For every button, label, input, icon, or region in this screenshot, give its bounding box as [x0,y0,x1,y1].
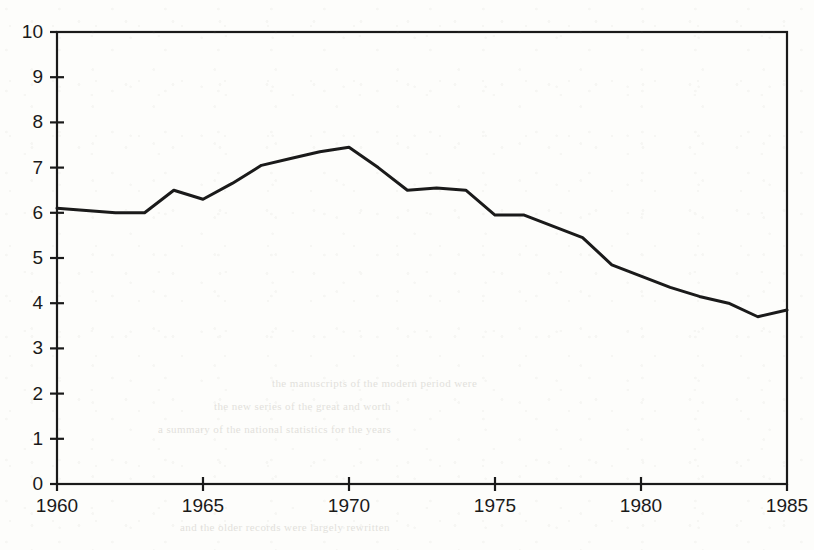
chart-background [0,0,814,550]
x-axis: 196019651970197519801985 [36,477,808,516]
x-tick-label: 1960 [36,495,78,516]
x-tick-label: 1965 [182,495,224,516]
x-tick-label: 1970 [328,495,370,516]
y-tick-label: 1 [32,428,43,449]
y-tick-label: 5 [32,247,43,268]
y-tick-label: 2 [32,383,43,404]
y-tick-label: 8 [32,111,43,132]
data-line-series-1 [57,147,787,317]
y-tick-label: 3 [32,337,43,358]
line-chart: 012345678910 196019651970197519801985 [0,0,814,550]
y-tick-label: 4 [32,292,43,313]
y-tick-label: 7 [32,157,43,178]
y-tick-label: 9 [32,66,43,87]
data-series-group [57,147,787,317]
x-tick-label: 1975 [474,495,516,516]
x-tick-label: 1980 [620,495,662,516]
y-tick-label: 10 [22,21,43,42]
y-tick-label: 0 [32,473,43,494]
plot-frame [57,32,787,484]
y-tick-label: 6 [32,202,43,223]
chart-figure: the manuscripts of the modern period wer… [0,0,814,550]
x-tick-label: 1985 [766,495,808,516]
